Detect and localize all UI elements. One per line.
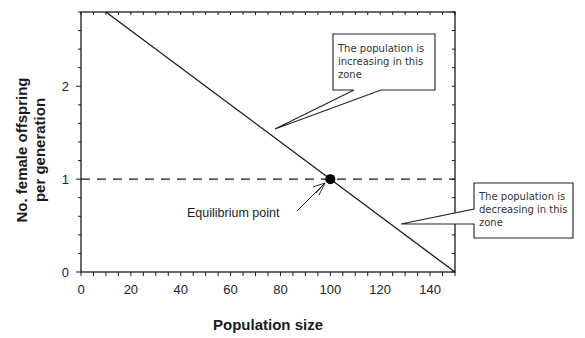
y-tick-label: 0 <box>62 265 69 280</box>
y-tick-labels: 012 <box>62 79 69 280</box>
x-tick-label: 40 <box>173 282 187 297</box>
callout-decreasing-line-3: zone <box>479 217 503 228</box>
callout-increasing-line-1: The population is <box>337 43 424 54</box>
y-axis-title: No. female offspring per generation <box>13 77 48 222</box>
callout-increasing-line-3: zone <box>338 69 362 80</box>
x-tick-labels: 020406080100120140 <box>77 282 441 297</box>
x-tick-label: 0 <box>77 282 84 297</box>
callout-decreasing-line-1: The population is <box>478 191 565 202</box>
callout-increasing-line-2: increasing in this <box>338 56 423 67</box>
x-tick-label: 60 <box>223 282 237 297</box>
callout-decreasing: The population is decreasing in this zon… <box>401 183 573 238</box>
x-axis-title: Population size <box>213 316 323 333</box>
y-tick-label: 1 <box>62 172 69 187</box>
callout-decreasing-line-2: decreasing in this <box>479 204 568 215</box>
equilibrium-point-marker <box>325 174 335 184</box>
y-tick-label: 2 <box>62 79 69 94</box>
y-axis-title-line-2: per generation <box>31 98 48 202</box>
equilibrium-label: Equilibrium point <box>187 206 280 220</box>
x-tick-label: 20 <box>124 282 138 297</box>
callout-increasing: The population is increasing in this zon… <box>275 34 435 129</box>
equilibrium-annotation: Equilibrium point <box>187 183 325 220</box>
equilibrium-arrow-icon <box>297 183 325 211</box>
x-tick-label: 120 <box>369 282 391 297</box>
x-tick-label: 80 <box>273 282 287 297</box>
x-tick-label: 100 <box>319 282 341 297</box>
chart: 020406080100120140 012 Population size N… <box>0 0 585 338</box>
x-tick-label: 140 <box>419 282 441 297</box>
y-axis-title-line-1: No. female offspring <box>13 77 30 222</box>
